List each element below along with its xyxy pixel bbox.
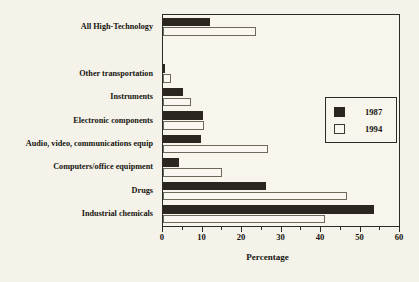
category-label: Electronic components bbox=[73, 116, 153, 125]
x-tick-minor bbox=[221, 227, 222, 230]
bar-row bbox=[163, 62, 400, 85]
bar-1987 bbox=[163, 158, 179, 166]
bar-1994 bbox=[163, 168, 222, 176]
x-tick-label: 40 bbox=[305, 232, 335, 242]
legend-swatch-1987-icon bbox=[334, 107, 345, 117]
category-label: All High-Technology bbox=[81, 22, 153, 31]
legend-label-1994: 1994 bbox=[365, 124, 382, 134]
x-axis-title: Percentage bbox=[0, 252, 419, 262]
category-label: Drugs bbox=[132, 186, 153, 195]
category-label: Computers/office equipment bbox=[53, 162, 153, 171]
bar-row bbox=[163, 15, 400, 38]
x-tick-label: 30 bbox=[266, 232, 296, 242]
bar-row bbox=[163, 38, 400, 61]
bar-1994 bbox=[163, 192, 347, 200]
x-axis-tick-labels: 0102030405060 bbox=[0, 232, 419, 245]
bar-1994 bbox=[163, 27, 256, 35]
bar-1994 bbox=[163, 74, 171, 82]
bar-1994 bbox=[163, 98, 191, 106]
bar-row bbox=[163, 203, 400, 226]
bar-1987 bbox=[163, 88, 183, 96]
bar-1987 bbox=[163, 182, 266, 190]
bar-chart: All High-TechnologyOther transportationI… bbox=[0, 0, 419, 282]
bar-1994 bbox=[163, 121, 204, 129]
x-tick-minor bbox=[300, 227, 301, 230]
legend-label-1987: 1987 bbox=[365, 107, 382, 117]
x-tick-minor bbox=[340, 227, 341, 230]
category-label: Other transportation bbox=[79, 69, 153, 78]
x-tick-minor bbox=[261, 227, 262, 230]
bar-1987 bbox=[163, 205, 374, 213]
legend-item-1987: 1987 bbox=[326, 103, 396, 120]
bar-1994 bbox=[163, 215, 325, 223]
chart-legend: 1987 1994 bbox=[325, 97, 397, 143]
bar-1987 bbox=[163, 64, 165, 72]
category-label: Industrial chemicals bbox=[82, 209, 153, 218]
bar-1987 bbox=[163, 135, 201, 143]
x-axis-title-text: Percentage bbox=[246, 252, 288, 262]
x-tick-minor bbox=[379, 227, 380, 230]
x-tick-label: 20 bbox=[226, 232, 256, 242]
x-tick-label: 10 bbox=[187, 232, 217, 242]
category-label: Audio, video, communications equip bbox=[26, 139, 153, 148]
legend-swatch-1994-icon bbox=[334, 124, 345, 134]
bar-1987 bbox=[163, 18, 210, 26]
x-tick-label: 0 bbox=[147, 232, 177, 242]
category-label: Instruments bbox=[110, 92, 153, 101]
category-axis-labels: All High-TechnologyOther transportationI… bbox=[0, 15, 159, 226]
x-tick-label: 50 bbox=[345, 232, 375, 242]
x-tick-minor bbox=[182, 227, 183, 230]
legend-item-1994: 1994 bbox=[326, 120, 396, 137]
x-tick-label: 60 bbox=[384, 232, 414, 242]
bar-1994 bbox=[163, 145, 268, 153]
bar-row bbox=[163, 179, 400, 202]
bar-1987 bbox=[163, 111, 203, 119]
bar-row bbox=[163, 156, 400, 179]
